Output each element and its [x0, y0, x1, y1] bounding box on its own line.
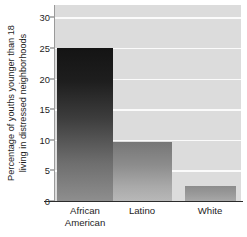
y-tick-label-30: 30: [40, 12, 50, 23]
x-tick-label-white: White: [198, 205, 223, 217]
y-tick-label-10: 10: [40, 134, 50, 145]
bar-latino: [113, 142, 172, 201]
bar-african-american: [57, 48, 113, 201]
gridline-30: [54, 17, 241, 19]
x-tick-label-white-line-1: White: [198, 205, 223, 217]
plot-area: [54, 5, 241, 201]
y-tick-label-15: 15: [40, 104, 50, 115]
x-tick-label-african-american: African American: [65, 205, 106, 228]
x-tick-label-latino: Latino: [129, 205, 155, 217]
y-tick-label-20: 20: [40, 73, 50, 84]
x-axis-line: [44, 201, 243, 202]
x-tick-label-african-american-line-2: American: [65, 217, 106, 229]
x-tick-label-african-american-line-1: African: [65, 205, 106, 217]
x-axis-tick-labels: African American Latino White: [54, 205, 241, 237]
bar-chart-figure: Percentage of youths younger than 18 liv…: [0, 0, 247, 237]
x-tick-label-latino-line-1: Latino: [129, 205, 155, 217]
y-axis-title-line-2: living in distressed neighborhoods: [17, 25, 29, 181]
y-axis-title: Percentage of youths younger than 18 liv…: [0, 0, 34, 205]
y-axis-line: [54, 5, 55, 201]
y-axis-title-line-1: Percentage of youths younger than 18: [6, 25, 18, 181]
y-tick-label-25: 25: [40, 42, 50, 53]
bar-white: [185, 186, 236, 201]
